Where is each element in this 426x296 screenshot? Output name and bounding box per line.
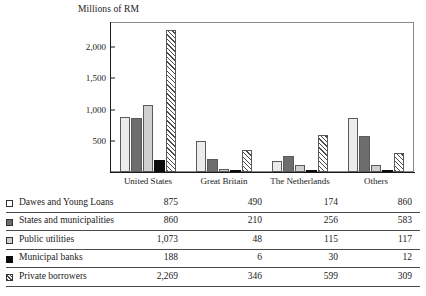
series-label: Public utilities — [19, 234, 74, 244]
legend-swatch-icon — [6, 256, 13, 263]
table-cell: 256 — [294, 215, 338, 225]
series-label: Private borrowers — [19, 271, 87, 281]
series-label: States and municipalities — [19, 215, 114, 225]
bar — [196, 141, 207, 172]
table-cell: 117 — [368, 234, 412, 244]
bar — [230, 170, 241, 172]
series-label: Municipal banks — [19, 252, 83, 262]
legend-swatch-icon — [6, 237, 13, 244]
chart-title: Millions of RM — [78, 4, 139, 14]
table-cell: 490 — [218, 197, 262, 207]
category-label: Others — [364, 176, 388, 186]
y-tick-label: 1,000 — [60, 105, 106, 115]
table-row: States and municipalities860210256583 — [6, 213, 420, 232]
bar — [306, 170, 317, 172]
category-label: The Netherlands — [270, 176, 330, 186]
bar-group — [262, 22, 338, 172]
bar — [143, 105, 154, 172]
bar — [359, 136, 370, 172]
legend-data-table: Dawes and Young Loans875490174860States … — [6, 194, 420, 287]
x-axis-baseline — [110, 172, 415, 173]
table-cell: 309 — [368, 271, 412, 281]
bar — [207, 159, 218, 172]
chart-page: Millions of RM 5001,0001,5002,000 United… — [0, 0, 426, 296]
table-cell: 188 — [134, 252, 178, 262]
bar-group — [186, 22, 262, 172]
bar — [283, 156, 294, 172]
bar — [166, 30, 177, 172]
table-cell: 2,269 — [134, 271, 178, 281]
table-cell: 12 — [368, 252, 412, 262]
bar — [131, 118, 142, 172]
table-cell: 599 — [294, 271, 338, 281]
table-row: Public utilities1,07348115117 — [6, 231, 420, 250]
table-cell: 115 — [294, 234, 338, 244]
category-label: United States — [124, 176, 172, 186]
y-tick-label: 2,000 — [60, 42, 106, 52]
y-tick-label: 1,500 — [60, 73, 106, 83]
bar — [348, 118, 359, 172]
table-cell: 875 — [134, 197, 178, 207]
bar — [295, 165, 306, 172]
table-cell: 6 — [218, 252, 262, 262]
table-cell: 48 — [218, 234, 262, 244]
bar — [318, 135, 329, 172]
table-cell: 1,073 — [134, 234, 178, 244]
series-label: Dawes and Young Loans — [19, 197, 113, 207]
bar-group — [110, 22, 186, 172]
table-row: Municipal banks18863012 — [6, 250, 420, 269]
bar — [371, 165, 382, 172]
table-cell: 860 — [134, 215, 178, 225]
legend-swatch-icon — [6, 200, 13, 207]
table-cell: 583 — [368, 215, 412, 225]
bar — [219, 169, 230, 172]
table-cell: 860 — [368, 197, 412, 207]
table-cell: 30 — [294, 252, 338, 262]
legend-swatch-icon — [6, 274, 13, 281]
bar-group — [338, 22, 414, 172]
table-cell: 346 — [218, 271, 262, 281]
bar — [154, 160, 165, 172]
table-cell: 210 — [218, 215, 262, 225]
y-tick-label: 500 — [60, 136, 106, 146]
table-row: Dawes and Young Loans875490174860 — [6, 194, 420, 213]
bar — [120, 117, 131, 172]
bar — [382, 170, 393, 172]
bars-layer — [110, 22, 414, 172]
bar — [242, 150, 253, 172]
bar — [394, 153, 405, 172]
legend-swatch-icon — [6, 219, 13, 226]
table-row: Private borrowers2,269346599309 — [6, 268, 420, 287]
table-cell: 174 — [294, 197, 338, 207]
category-label: Great Britain — [200, 176, 247, 186]
bar — [272, 161, 283, 172]
